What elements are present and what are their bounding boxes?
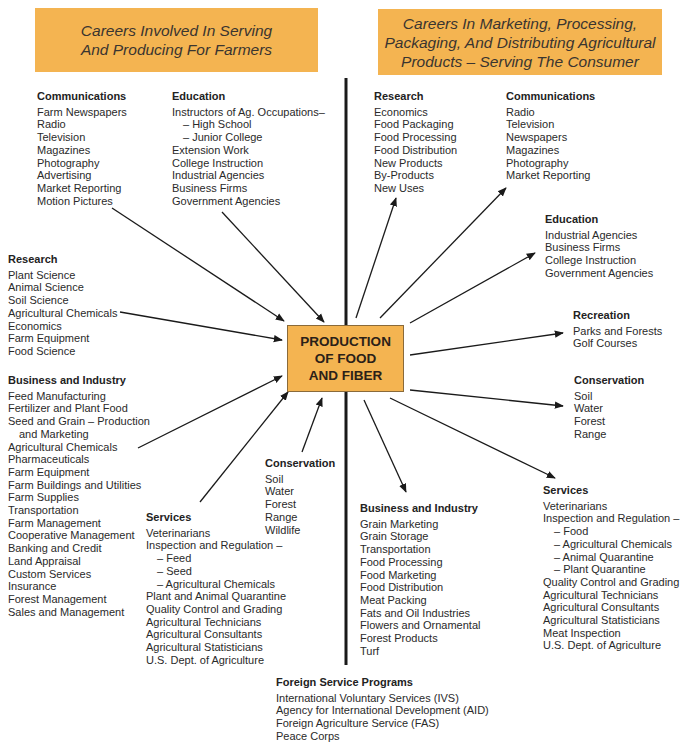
list-item: Photography (506, 157, 595, 170)
banner-line: Products – Serving The Consumer (401, 52, 639, 71)
list-item: Sales and Management (8, 606, 150, 619)
list-item: Government Agencies (172, 195, 325, 208)
list-item: – Feed (146, 552, 286, 565)
list-item: Quality Control and Grading (146, 603, 286, 616)
group-left-business: Business and Industry Feed Manufacturing… (8, 374, 150, 618)
list-item: – Plant Quarantine (543, 563, 679, 576)
group-title: Business and Industry (8, 374, 150, 387)
list-item: Government Agencies (545, 267, 653, 280)
list-item: – Seed (146, 565, 286, 578)
list-item: Market Reporting (506, 169, 595, 182)
group-right-business: Business and Industry Grain Marketing Gr… (360, 502, 480, 657)
list-item: Veterinarians (543, 500, 679, 513)
list-item: Motion Pictures (37, 195, 127, 208)
list-item: Agricultural Technicians (146, 616, 286, 629)
group-left-services: Services Veterinarians Inspection and Re… (146, 511, 286, 666)
list-item: Range (574, 428, 644, 441)
list-item: Economics (374, 106, 457, 119)
list-item: Seed and Grain – Production (8, 415, 150, 428)
list-item: Radio (37, 118, 127, 131)
list-item: Photography (37, 157, 127, 170)
list-item: Veterinarians (146, 527, 286, 540)
group-title: Business and Industry (360, 502, 480, 515)
list-item: Television (506, 118, 595, 131)
list-item: Agricultural Consultants (146, 628, 286, 641)
list-item: Agricultural Chemicals (8, 307, 117, 320)
list-item: Quality Control and Grading (543, 576, 679, 589)
list-item: Business Firms (172, 182, 325, 195)
group-foreign-service: Foreign Service Programs International V… (276, 676, 489, 743)
list-item: Magazines (37, 144, 127, 157)
list-item: Agricultural Chemicals (8, 441, 150, 454)
list-item: Business Firms (545, 241, 653, 254)
list-item: Meat Inspection (543, 627, 679, 640)
list-item: Custom Services (8, 568, 150, 581)
list-item: Food Distribution (374, 144, 457, 157)
list-item: College Instruction (545, 254, 653, 267)
list-item: Food Distribution (360, 581, 480, 594)
banner-line: And Producing For Farmers (81, 40, 272, 59)
center-label: AND FIBER (309, 367, 383, 384)
list-item: Industrial Agencies (545, 229, 653, 242)
group-right-communications: Communications Radio Television Newspape… (506, 90, 595, 182)
list-item: Soil (574, 390, 644, 403)
list-item: Industrial Agencies (172, 169, 325, 182)
list-item: Farm Supplies (8, 491, 150, 504)
list-item: Inspection and Regulation – (543, 512, 679, 525)
group-left-education: Education Instructors of Ag. Occupations… (172, 90, 325, 207)
list-item: Fats and Oil Industries (360, 607, 480, 620)
center-node-production: PRODUCTION OF FOOD AND FIBER (287, 325, 404, 392)
group-title: Research (8, 253, 117, 266)
group-title: Education (172, 90, 325, 103)
list-item: Agricultural Statisticians (146, 641, 286, 654)
list-item: Food Processing (360, 556, 480, 569)
list-item: Animal Science (8, 281, 117, 294)
list-item: Farm Buildings and Utilities (8, 479, 150, 492)
list-item: Cooperative Management (8, 529, 150, 542)
list-item: Radio (506, 106, 595, 119)
list-item: Foreign Agriculture Service (FAS) (276, 717, 489, 730)
list-item: Parks and Forests (573, 325, 662, 338)
group-right-research: Research Economics Food Packaging Food P… (374, 90, 457, 195)
list-item: Economics (8, 320, 117, 333)
banner-line: Careers In Marketing, Processing, (403, 14, 637, 33)
list-item: Banking and Credit (8, 542, 150, 555)
list-item: Farm Newspapers (37, 106, 127, 119)
center-label: OF FOOD (315, 350, 377, 367)
list-item: Land Appraisal (8, 555, 150, 568)
group-title: Foreign Service Programs (276, 676, 489, 689)
list-item: – High School (172, 118, 325, 131)
list-item: – Animal Quarantine (543, 551, 679, 564)
list-item: Agricultural Statisticians (543, 614, 679, 627)
list-item: Forest Products (360, 632, 480, 645)
list-item: – Junior College (172, 131, 325, 144)
list-item: Food Marketing (360, 569, 480, 582)
list-item: Food Processing (374, 131, 457, 144)
list-item: Agricultural Technicians (543, 589, 679, 602)
list-item: Peace Corps (276, 730, 489, 743)
list-item: Feed Manufacturing (8, 390, 150, 403)
list-item: Food Science (8, 345, 117, 358)
group-title: Communications (37, 90, 127, 103)
list-item: Plant and Animal Quarantine (146, 590, 286, 603)
list-item: Food Packaging (374, 118, 457, 131)
group-title: Recreation (573, 309, 662, 322)
list-item: Flowers and Ornamental (360, 619, 480, 632)
banner-serving-farmers: Careers Involved In Serving And Producin… (35, 8, 318, 72)
banner-line: Packaging, And Distributing Agricultural (384, 33, 655, 52)
group-title: Education (545, 213, 653, 226)
list-item: College Instruction (172, 157, 325, 170)
list-item: Extension Work (172, 144, 325, 157)
list-item: – Agricultural Chemicals (146, 578, 286, 591)
list-item: Forest (265, 498, 335, 511)
list-item: Insurance (8, 580, 150, 593)
list-item: Grain Storage (360, 530, 480, 543)
group-right-conservation: Conservation Soil Water Forest Range (574, 374, 644, 441)
list-item: U.S. Dept. of Agriculture (543, 639, 679, 652)
list-item: Magazines (506, 144, 595, 157)
list-item: – Agricultural Chemicals (543, 538, 679, 551)
list-item: Farm Equipment (8, 332, 117, 345)
list-item: Forest (574, 415, 644, 428)
group-right-services: Services Veterinarians Inspection and Re… (543, 484, 679, 652)
banner-serving-consumer: Careers In Marketing, Processing, Packag… (378, 9, 662, 75)
